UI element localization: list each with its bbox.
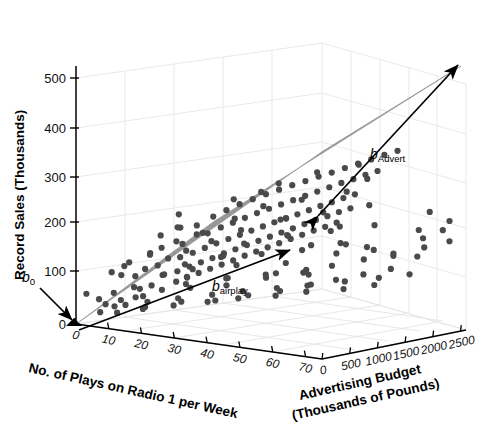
data-point [311, 227, 317, 233]
data-point [183, 248, 189, 254]
data-point [111, 303, 117, 309]
z-tick-label: 1000 [364, 349, 393, 369]
y-tick-label: 200 [44, 215, 66, 230]
data-point [96, 296, 102, 302]
data-point [388, 266, 394, 272]
data-point [329, 263, 335, 269]
y-tick-label: 300 [44, 170, 66, 185]
data-point [427, 209, 433, 215]
data-point [121, 263, 127, 269]
data-point [200, 230, 206, 236]
data-point [254, 210, 260, 216]
z-tick [405, 336, 406, 342]
data-point [248, 228, 254, 234]
data-point [356, 162, 362, 168]
data-point [328, 228, 334, 234]
data-point [159, 287, 165, 293]
data-point [366, 202, 372, 208]
z-tick [350, 347, 351, 353]
x-tick-label: 20 [132, 336, 149, 353]
data-point [347, 205, 353, 211]
data-point [272, 293, 278, 299]
data-point [209, 255, 215, 261]
data-point [194, 231, 200, 237]
data-point [208, 238, 214, 244]
data-point [289, 182, 295, 188]
data-point [302, 178, 308, 184]
z-tick-label: 0 [318, 362, 328, 377]
data-point [183, 281, 189, 287]
data-point [212, 297, 218, 303]
data-point [340, 286, 346, 292]
data-point [225, 275, 231, 281]
data-point [326, 184, 332, 190]
data-point [283, 215, 289, 221]
data-point [337, 223, 343, 229]
data-point [147, 252, 153, 258]
data-point [232, 246, 238, 252]
data-point [283, 260, 289, 266]
data-point [371, 282, 377, 288]
data-point [337, 240, 343, 246]
data-point [137, 286, 143, 292]
data-point [173, 279, 179, 285]
data-point [406, 271, 412, 277]
data-point [174, 268, 180, 274]
y-tick-labels: 0100200300400500 [44, 71, 66, 332]
data-point [140, 293, 146, 299]
data-point [182, 261, 188, 267]
data-point [176, 211, 182, 217]
data-point [390, 253, 396, 259]
data-point [196, 270, 202, 276]
data-point [344, 189, 350, 195]
data-point [301, 221, 307, 227]
data-point [342, 165, 348, 171]
data-point [265, 244, 271, 250]
data-point [175, 295, 181, 301]
data-point [333, 250, 339, 256]
b0-arrow [40, 288, 72, 320]
data-point [207, 266, 213, 272]
z-tick [322, 353, 323, 359]
data-point [223, 207, 229, 213]
data-point [308, 281, 314, 287]
data-point [308, 242, 314, 248]
data-point [232, 216, 238, 222]
data-point [173, 238, 179, 244]
figure-3d-regression: 0100200300400500 010203040506070 0500100… [0, 0, 500, 439]
data-point [364, 176, 370, 182]
scatter-points [83, 148, 452, 316]
data-point [284, 232, 290, 238]
data-point [109, 269, 115, 275]
data-point [278, 201, 284, 207]
data-point [260, 203, 266, 209]
bairplay-label: bairplay [212, 278, 248, 296]
data-point [322, 224, 328, 230]
data-point [440, 227, 446, 233]
data-point [218, 224, 224, 230]
z-tick [461, 325, 462, 331]
data-point [446, 238, 452, 244]
data-point [179, 241, 185, 247]
data-point [133, 294, 139, 300]
data-point [263, 275, 269, 281]
data-point [242, 215, 248, 221]
data-point [126, 259, 132, 265]
data-point [155, 262, 161, 268]
data-point [111, 290, 117, 296]
data-point [118, 297, 124, 303]
z-tick [377, 342, 378, 348]
data-point [266, 206, 272, 212]
data-point [329, 169, 335, 175]
y-tick-label: 100 [44, 264, 66, 279]
data-point [132, 273, 138, 279]
data-point [235, 295, 241, 301]
data-point [414, 253, 420, 259]
data-point [161, 271, 167, 277]
y-tick-label: 0 [59, 317, 66, 332]
x-axis-label: No. of Plays on Radio 1 per Week [27, 360, 239, 421]
data-point [242, 253, 248, 259]
y-tick-label: 400 [44, 121, 66, 136]
data-point [361, 256, 367, 262]
data-point [290, 225, 296, 231]
